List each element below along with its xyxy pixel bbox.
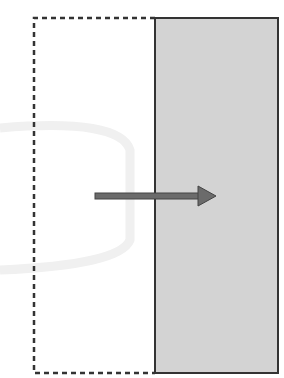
diagram-canvas	[0, 0, 284, 378]
